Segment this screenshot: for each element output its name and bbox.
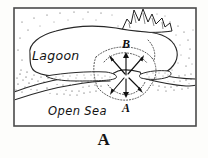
open-sea-label: Open Sea: [48, 104, 107, 118]
point-b-label: B: [121, 37, 130, 51]
figure-container: Lagoon Open Sea B A A: [0, 0, 208, 158]
lagoon-label: Lagoon: [32, 48, 80, 63]
figure-caption: A: [0, 130, 208, 150]
point-a-label: A: [121, 101, 130, 115]
